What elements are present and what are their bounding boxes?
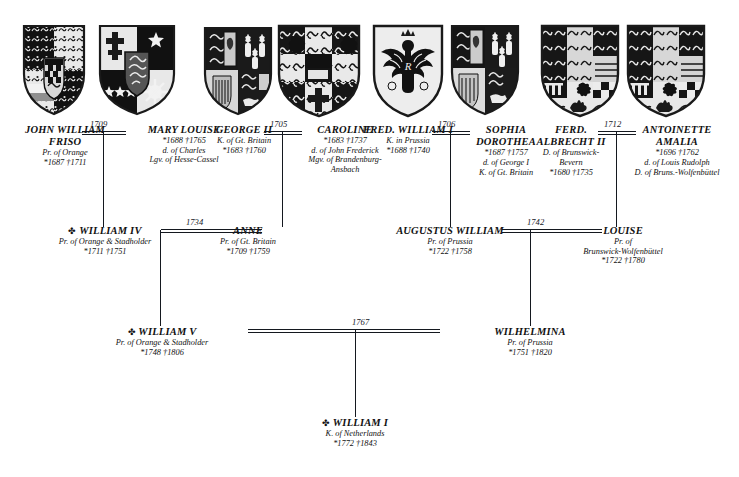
person-title: K. of Netherlands bbox=[290, 429, 420, 439]
marriage-bar-1767 bbox=[248, 329, 440, 333]
person-dates: *1687 †1711 bbox=[2, 158, 128, 168]
person-title: Pr. of Prussia bbox=[380, 237, 520, 247]
descent-line-prussia bbox=[450, 132, 451, 227]
marriage-bar-1742 bbox=[502, 229, 602, 233]
person-william-v: ✤ WILLIAM V Pr. of Orange & Stadholder *… bbox=[88, 326, 236, 357]
person-name: ✤ WILLIAM V bbox=[88, 326, 236, 338]
person-dates: *1772 †1843 bbox=[290, 439, 420, 449]
person-dates: *1748 †1806 bbox=[88, 348, 236, 358]
descent-line-william-iv bbox=[160, 230, 161, 326]
person-name-text: WILLIAM IV bbox=[79, 225, 141, 236]
marriage-year-1712: 1712 bbox=[604, 119, 621, 129]
person-title-2: Brunswick-Wolfenbüttel bbox=[560, 247, 686, 257]
coat-of-arms-brunswick-bevern bbox=[540, 24, 620, 118]
person-title-2: Bevern bbox=[516, 158, 626, 168]
person-name: ✤ WILLIAM I bbox=[290, 417, 420, 429]
descent-line-augustus bbox=[530, 230, 531, 326]
person-dates: *1722 †1758 bbox=[380, 247, 520, 257]
person-name-text: WILLIAM V bbox=[138, 326, 196, 337]
person-name: AUGUSTUS WILLIAM bbox=[380, 225, 520, 237]
person-title: Pr. of Gt. Britain bbox=[196, 237, 300, 247]
marriage-bar-1734 bbox=[161, 229, 262, 233]
marriage-year-1734: 1734 bbox=[186, 217, 203, 227]
person-title: Pr. of Prussia bbox=[466, 338, 594, 348]
marriage-year-1706: 1706 bbox=[438, 119, 455, 129]
crown-icon: ✤ bbox=[68, 226, 76, 236]
person-title: K. of Gt. Britain bbox=[192, 136, 296, 146]
person-title-3: Ansbach bbox=[284, 165, 406, 175]
crown-icon: ✤ bbox=[128, 327, 136, 337]
marriage-year-1742: 1742 bbox=[527, 217, 544, 227]
marriage-year-1705: 1705 bbox=[270, 119, 287, 129]
person-dates: *1709 †1759 bbox=[196, 247, 300, 257]
person-name-line2: FRISO bbox=[2, 136, 128, 148]
person-augustus-william: AUGUSTUS WILLIAM Pr. of Prussia *1722 †1… bbox=[380, 225, 520, 256]
descent-line-friso bbox=[103, 132, 104, 227]
person-dates: *1683 †1760 bbox=[192, 146, 296, 156]
person-dates: *1696 †1762 bbox=[616, 148, 738, 158]
person-william-iv: ✤ WILLIAM IV Pr. of Orange & Stadholder … bbox=[30, 225, 180, 256]
svg-text:R: R bbox=[404, 60, 412, 72]
coat-of-arms-hesse-cassel bbox=[98, 24, 176, 116]
coat-of-arms-great-britain-hanover bbox=[450, 24, 520, 116]
person-title: Pr. of Orange bbox=[2, 148, 128, 158]
genealogy-chart: R bbox=[0, 0, 739, 477]
descent-line-brunswick bbox=[616, 132, 617, 227]
person-william-i: ✤ WILLIAM I K. of Netherlands *1772 †184… bbox=[290, 417, 420, 448]
person-name: WILHELMINA bbox=[466, 326, 594, 338]
coat-of-arms-brandenburg-ansbach bbox=[277, 24, 361, 118]
person-title-2: Mgv. of Brandenburg- bbox=[284, 155, 406, 165]
marriage-year-1767: 1767 bbox=[352, 317, 369, 327]
person-title: d. of Louis Rudolph bbox=[616, 158, 738, 168]
coat-of-arms-prussia: R bbox=[372, 24, 444, 118]
person-title-2: Lgv. of Hesse-Cassel bbox=[120, 155, 248, 165]
person-name: ✤ WILLIAM IV bbox=[30, 225, 180, 237]
person-name-line2: AMALIA bbox=[616, 136, 738, 148]
descent-line-george bbox=[282, 132, 283, 227]
person-dates: *1680 †1735 bbox=[516, 168, 626, 178]
person-name-line2: ALBRECHT II bbox=[516, 136, 626, 148]
marriage-year-1709: 1709 bbox=[90, 119, 107, 129]
person-dates: *1722 †1780 bbox=[560, 256, 686, 266]
coat-of-arms-orange-nassau bbox=[22, 24, 86, 116]
descent-line-william-v bbox=[355, 330, 356, 417]
crown-icon: ✤ bbox=[322, 418, 330, 428]
person-title: D. of Brunswick- bbox=[516, 148, 626, 158]
person-dates: *1751 †1820 bbox=[466, 348, 594, 358]
person-dates: *1711 †1751 bbox=[30, 247, 180, 257]
person-title: Pr. of Orange & Stadholder bbox=[88, 338, 236, 348]
coat-of-arms-great-britain bbox=[203, 26, 273, 116]
coat-of-arms-brunswick-wolfenbuettel bbox=[626, 24, 706, 118]
person-name-text: WILLIAM I bbox=[333, 417, 388, 428]
person-wilhelmina: WILHELMINA Pr. of Prussia *1751 †1820 bbox=[466, 326, 594, 357]
person-title-2: D. of Bruns.-Wolfenbüttel bbox=[616, 168, 738, 178]
person-title: Pr. of bbox=[560, 237, 686, 247]
person-title: Pr. of Orange & Stadholder bbox=[30, 237, 180, 247]
